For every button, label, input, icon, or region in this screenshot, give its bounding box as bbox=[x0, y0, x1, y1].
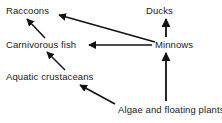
node-label-algae: Algae and floating plants bbox=[118, 104, 222, 115]
node-label-carnivorous-fish: Carnivorous fish bbox=[6, 39, 76, 50]
node-label-ducks: Ducks bbox=[146, 5, 173, 16]
edge-algae-to-aquatic-crustaceans bbox=[80, 85, 115, 104]
edge-minnows-to-raccoons bbox=[59, 15, 155, 42]
edge-aquatic-crustaceans-to-carnivorous-fish bbox=[47, 52, 65, 70]
food-web-diagram: Raccoons Ducks Carnivorous fish Minnows … bbox=[0, 0, 222, 123]
node-label-aquatic-crustaceans: Aquatic crustaceans bbox=[6, 71, 93, 82]
edge-carnivorous-fish-to-raccoons bbox=[27, 19, 45, 38]
node-label-raccoons: Raccoons bbox=[6, 5, 49, 16]
node-label-minnows: Minnows bbox=[155, 39, 193, 50]
